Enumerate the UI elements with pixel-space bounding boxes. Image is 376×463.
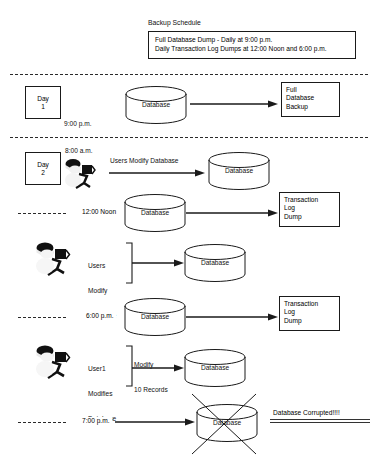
arrow-right-icon — [109, 168, 205, 178]
arrow-day1-to-backup — [190, 99, 278, 109]
arrow-noon-to-log — [186, 208, 278, 218]
backup-line-1: Full — [286, 86, 335, 94]
timeline-divider-2 — [10, 137, 368, 138]
log-line-3: Dump — [284, 317, 335, 325]
person-at-terminal-icon-user1 — [33, 343, 75, 385]
day-2-label: Day — [37, 161, 49, 169]
database-cylinder-icon — [124, 298, 186, 336]
evening-time-label: 6:00 p.m. — [84, 312, 116, 319]
day-2-time: 8:00 a.m. — [65, 147, 93, 155]
modify-records-label: Modify 10 Records — [134, 345, 168, 411]
midday-users-label: Users Modify Database — [88, 246, 116, 336]
database-cylinder-icon — [184, 349, 246, 387]
arrow-evening-to-log — [186, 312, 278, 322]
arrow-right-icon — [132, 258, 184, 268]
database-cylinder-icon — [124, 194, 186, 232]
diagram-title: Backup Schedule — [148, 19, 201, 27]
transaction-log-dump-box-noon: Transaction Log Dump — [279, 192, 340, 227]
midday-users-line-2: Modify — [88, 287, 116, 295]
day-2-arrow-label: Users Modify Database — [110, 157, 179, 165]
database-cylinder-evening: Database — [124, 298, 186, 336]
database-cylinder-user1: Database — [184, 349, 246, 387]
database-corrupted-message: Database Corrupted!!!! — [273, 409, 340, 416]
log-line-2: Log — [284, 204, 335, 212]
full-database-backup-box: Full Database Backup — [281, 82, 340, 117]
midday-users-line-1: Users — [88, 262, 116, 270]
corrupted-underline-1 — [270, 419, 370, 420]
arrow-users-modify-day2 — [109, 168, 205, 178]
corrupted-underline-2 — [270, 422, 370, 423]
dash-segment — [18, 213, 66, 214]
log-line-2: Log — [284, 308, 335, 316]
corruption-time-label: 7:00 p.m. — [80, 417, 112, 424]
user1-line-1: User1 — [88, 365, 116, 373]
dash-segment — [10, 137, 368, 138]
database-cylinder-icon — [184, 244, 246, 282]
person-at-terminal-icon — [33, 343, 75, 385]
database-cylinder-icon — [208, 152, 270, 190]
noon-time-label: 12:00 Noon — [80, 208, 118, 215]
database-cylinder-icon — [125, 86, 187, 124]
arrow-right-icon — [190, 99, 278, 109]
dash-segment — [18, 317, 66, 318]
dash-segment — [10, 74, 368, 75]
day-1-box: Day 1 — [25, 86, 61, 119]
day-2-box: Day 2 — [25, 152, 61, 185]
diagram-canvas: Backup Schedule Full Database Dump - Dai… — [0, 0, 376, 463]
corruption-cross-mark — [180, 392, 274, 460]
user1-line-2: Modifies — [88, 390, 116, 398]
person-at-terminal-icon — [62, 157, 102, 193]
modify-line-2: 10 Records — [134, 386, 168, 394]
day-1-label: Day — [37, 95, 49, 103]
backup-schedule-box: Full Database Dump - Daily at 9:00 p.m. … — [148, 31, 356, 59]
arrow-right-icon — [132, 363, 184, 373]
person-at-terminal-icon-midday — [33, 240, 75, 282]
log-line-3: Dump — [284, 213, 335, 221]
day-2-number: 2 — [41, 169, 45, 177]
user1-label: User1 Modifies Database — [88, 349, 116, 439]
schedule-line-2: Daily Transaction Log Dumps at 12:00 Noo… — [155, 45, 349, 54]
timeline-divider-1 — [10, 74, 368, 75]
database-cylinder-day2: Database — [208, 152, 270, 190]
arrow-right-icon — [186, 312, 278, 322]
database-cylinder-midday: Database — [184, 244, 246, 282]
dash-segment — [18, 422, 66, 423]
log-line-1: Transaction — [284, 300, 335, 308]
schedule-line-1: Full Database Dump - Daily at 9:00 p.m. — [155, 36, 349, 45]
person-at-terminal-icon — [33, 240, 75, 282]
arrow-user1-to-database — [132, 363, 184, 373]
arrow-right-icon — [186, 208, 278, 218]
day-1-time: 9:00 p.m. — [64, 120, 92, 128]
database-cylinder-noon: Database — [124, 194, 186, 232]
day-1-number: 1 — [41, 103, 45, 111]
transaction-log-dump-box-evening: Transaction Log Dump — [279, 296, 340, 331]
database-cylinder-day1: Database — [125, 86, 187, 124]
backup-line-2: Database — [286, 94, 335, 102]
arrow-midday-to-database — [132, 258, 184, 268]
backup-line-3: Backup — [286, 103, 335, 111]
x-cross-icon — [180, 392, 274, 460]
person-at-terminal-icon-day2 — [62, 157, 102, 193]
log-line-1: Transaction — [284, 196, 335, 204]
